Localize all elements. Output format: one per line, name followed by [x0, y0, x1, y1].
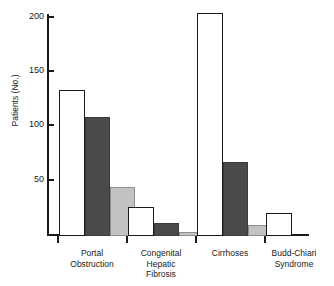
bars-layer [49, 10, 309, 236]
x-label-budd-chiari-syndrome-line-0: Budd-Chiari [255, 248, 333, 259]
y-tick-label-100: 100 [0, 120, 44, 129]
x-label-budd-chiari-syndrome-line-1: Syndrome [255, 259, 333, 270]
x-label-congenital-hepatic-fibrosis-line-0: Congenital [119, 248, 203, 259]
bar-cirrhoses-white [197, 13, 223, 236]
x-tick-2 [195, 236, 197, 243]
y-tick-label-200: 200 [0, 12, 44, 21]
y-tick-label-150: 150 [0, 66, 44, 75]
x-label-congenital-hepatic-fibrosis-line-1: Hepatic [119, 259, 203, 270]
x-tick-1 [126, 236, 128, 243]
x-tick-0 [57, 236, 59, 243]
x-label-budd-chiari-syndrome: Budd-Chiari Syndrome [255, 248, 333, 269]
bar-chart: Patients (No.) 200 150 100 50 Portal Obs… [0, 0, 334, 286]
x-tick-3 [264, 236, 266, 243]
bar-cirrhoses-dark [223, 162, 248, 236]
bar-congenital-hepatic-fibrosis-white [128, 207, 154, 236]
bar-congenital-hepatic-fibrosis-dark [154, 223, 179, 236]
bar-portal-obstruction-white [59, 90, 85, 236]
x-label-congenital-hepatic-fibrosis-line-2: Fibrosis [119, 269, 203, 280]
x-label-congenital-hepatic-fibrosis: Congenital Hepatic Fibrosis [119, 248, 203, 280]
y-tick-label-50: 50 [0, 175, 44, 184]
bar-budd-chiari-syndrome-white [266, 213, 292, 236]
bar-portal-obstruction-dark [85, 117, 110, 236]
